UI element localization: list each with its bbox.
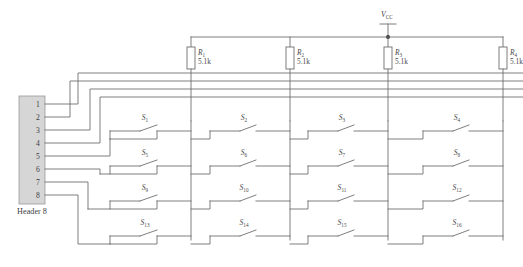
switch-s6-step	[191, 166, 210, 174]
net-pin2-column2	[45, 81, 523, 117]
switch-s6-lever	[240, 160, 256, 166]
header-pin-3-number: 3	[36, 126, 40, 135]
switch-s12-label: S12	[453, 183, 462, 193]
resistor-r3: R3 5.1k	[384, 47, 408, 121]
switch-s6[interactable]: S6	[191, 148, 290, 174]
header-8-caption: Header 8	[17, 207, 47, 216]
switch-s4[interactable]: S4	[388, 113, 503, 139]
switch-s3-step	[290, 131, 308, 139]
switch-s12[interactable]: S12	[388, 183, 503, 209]
switch-s11[interactable]: S11	[290, 183, 388, 209]
switch-s12-step	[388, 201, 423, 209]
switch-s8-label: S8	[454, 148, 461, 158]
switch-s16-label: S16	[453, 218, 462, 228]
resistor-r3-value: 5.1k	[395, 57, 408, 66]
vcc-supply: VCC	[380, 10, 396, 39]
header-pin-7-number: 7	[36, 178, 40, 187]
switch-s14-label: S14	[240, 218, 249, 228]
header-8-connector[interactable]: 1 2 3 4 5 6 7 8 Header 8	[17, 96, 47, 216]
switch-s9[interactable]: S9	[110, 183, 191, 201]
resistor-r4-body	[499, 47, 507, 69]
switch-s2-lever	[240, 125, 256, 131]
net-pin8-row4	[45, 195, 110, 244]
switch-s11-step	[290, 201, 308, 209]
switch-s6-label: S6	[241, 148, 248, 158]
net-pin7-row3	[45, 182, 88, 209]
resistor-r3-body	[384, 47, 392, 69]
switch-s14-step	[191, 236, 210, 244]
vcc-label-sub: CC	[386, 14, 393, 20]
header-pin-5-number: 5	[36, 152, 40, 161]
switch-s15-step	[290, 236, 308, 244]
switch-row-1: S1 S2 S3 S4	[110, 113, 503, 139]
switch-s7-step	[290, 166, 308, 174]
switch-s11-label: S11	[338, 183, 347, 193]
switch-row-3: S9 S10 S11 S12	[88, 183, 503, 209]
header-pin-8-number: 8	[36, 191, 40, 200]
switch-s15-label: S15	[338, 218, 347, 228]
switch-s4-label: S4	[454, 113, 461, 123]
switch-s3-label: S3	[339, 113, 346, 123]
switch-s11-lever	[338, 195, 354, 201]
switch-s3[interactable]: S3	[290, 113, 388, 139]
header-pin-4-number: 4	[36, 139, 40, 148]
switch-s12-lever	[453, 195, 469, 201]
switch-s13[interactable]: S13	[110, 218, 191, 236]
switch-s7-lever	[338, 160, 354, 166]
switch-s1-lever	[140, 125, 157, 131]
switch-s14[interactable]: S14	[191, 218, 290, 244]
resistor-r2-value: 5.1k	[297, 57, 310, 66]
switch-row-2: S5 S6 S7 S8	[100, 148, 503, 174]
switch-s16-lever	[453, 230, 469, 236]
switch-s13-lever	[140, 230, 157, 236]
vcc-label: VCC	[381, 10, 393, 20]
net-pin3-column3	[45, 89, 523, 130]
switch-s5-label: S5	[142, 148, 149, 158]
header-pin-2-number: 2	[36, 113, 40, 122]
switch-s2-label: S2	[241, 113, 248, 123]
switch-s14-lever	[240, 230, 256, 236]
switch-s7[interactable]: S7	[290, 148, 388, 174]
row2-bus-seg-a	[100, 166, 157, 174]
switch-s16-step	[388, 236, 423, 244]
switch-s16[interactable]: S16	[388, 218, 503, 244]
switch-s8[interactable]: S8	[388, 148, 503, 174]
switch-s8-lever	[453, 160, 469, 166]
switch-s10-step	[191, 201, 210, 209]
row4-bus-seg-a	[110, 236, 157, 244]
switch-s9-label: S9	[142, 183, 149, 193]
switch-row-4: S13 S14 S15 S16	[110, 218, 503, 244]
switch-s8-step	[388, 166, 423, 174]
resistor-r2-body	[286, 47, 294, 69]
switch-s10-lever	[240, 195, 256, 201]
row1-bus-seg-a	[110, 131, 157, 139]
switch-s15[interactable]: S15	[290, 218, 388, 244]
switch-s1[interactable]: S1	[110, 113, 191, 131]
switch-s10-label: S10	[240, 183, 249, 193]
switch-s1-label: S1	[142, 113, 149, 123]
switch-s13-label: S13	[141, 218, 150, 228]
header-pin-1-number: 1	[36, 100, 40, 109]
resistor-r2: R2 5.1k	[286, 47, 310, 121]
switch-s2-step	[191, 131, 210, 139]
net-pin6-row2	[45, 169, 100, 174]
row3-bus-seg-a	[88, 201, 157, 209]
switch-s5-lever	[140, 160, 157, 166]
resistor-r1-value: 5.1k	[198, 57, 211, 66]
resistor-r4-value: 5.1k	[510, 57, 523, 66]
switch-s15-lever	[338, 230, 354, 236]
switch-s4-step	[388, 131, 423, 139]
switch-s9-lever	[140, 195, 157, 201]
resistor-r1-body	[187, 47, 195, 69]
switch-s2[interactable]: S2	[191, 113, 290, 139]
net-pin1-column1	[45, 73, 523, 104]
header-8-body	[19, 96, 45, 204]
switch-s10[interactable]: S10	[191, 183, 290, 209]
net-pin4-column4	[45, 97, 523, 143]
resistor-r4: R4 5.1k	[499, 47, 523, 121]
switch-s7-label: S7	[339, 148, 346, 158]
switch-s4-lever	[453, 125, 469, 131]
switch-s5[interactable]: S5	[110, 148, 191, 166]
circuit-schematic: VCC R1 5.1k R2 5.1k R3 5.1k R4 5.1k 1	[0, 0, 523, 267]
switch-s3-lever	[338, 125, 354, 131]
